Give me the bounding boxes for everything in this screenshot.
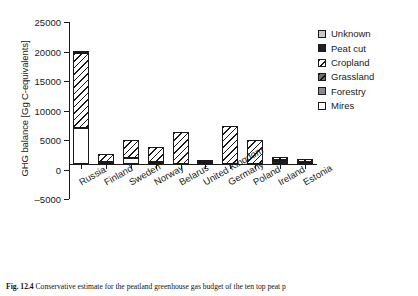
- bar-segment-cropland: [98, 154, 114, 162]
- legend-swatch-icon-unknown: [318, 30, 326, 38]
- legend-item-cropland[interactable]: Cropland: [318, 56, 374, 70]
- y-tick-label: 0: [56, 164, 61, 175]
- y-tick: [64, 140, 69, 141]
- figure-container: GHG balance [Gg C-equivalents] 250002000…: [0, 0, 418, 296]
- bar-ireland[interactable]: [272, 157, 288, 163]
- bar-segment-cropland: [73, 53, 89, 128]
- x-tick: [106, 164, 107, 169]
- legend-item-peatcut[interactable]: Peat cut: [318, 41, 374, 55]
- legend-swatch-icon-mires: [318, 102, 326, 110]
- y-tick-label: 10000: [35, 105, 61, 116]
- bar-segment-cropland: [297, 159, 313, 162]
- caption-number: Fig. 12.4: [6, 283, 34, 291]
- legend-item-unknown[interactable]: Unknown: [318, 27, 374, 41]
- legend-label: Grassland: [331, 72, 374, 82]
- bar-segment-cropland: [173, 132, 189, 163]
- legend-label: Mires: [331, 101, 354, 111]
- legend-swatch-icon-peatcut: [318, 44, 326, 52]
- bar-segment-cropland: [272, 157, 288, 160]
- legend-label: Forestry: [331, 87, 366, 97]
- y-tick: [64, 111, 69, 112]
- y-tick-label: 15000: [35, 76, 61, 87]
- legend-item-forestry[interactable]: Forestry: [318, 84, 374, 98]
- legend-item-grassland[interactable]: Grassland: [318, 70, 374, 84]
- legend-swatch-icon-grassland: [318, 73, 326, 81]
- figure-caption: Fig. 12.4 Conservative estimate for the …: [6, 283, 418, 294]
- bar-segment-cropland: [197, 160, 213, 162]
- x-tick: [81, 164, 82, 169]
- x-tick: [305, 164, 306, 169]
- y-tick: [64, 22, 69, 23]
- y-tick: [64, 81, 69, 82]
- legend-swatch-icon-cropland: [318, 59, 326, 67]
- bar-belarus[interactable]: [173, 132, 189, 163]
- bar-russia[interactable]: [73, 51, 89, 164]
- bar-sweden[interactable]: [123, 140, 139, 164]
- y-tick-label: 25000: [35, 17, 61, 28]
- y-axis-title: GHG balance [Gg C-equivalents]: [19, 19, 30, 199]
- y-tick-label: –5000: [35, 194, 61, 205]
- bar-segment-cropland: [123, 140, 139, 158]
- bar-finland[interactable]: [98, 154, 114, 163]
- bar-segment-mires: [123, 158, 139, 163]
- legend-label: Peat cut: [331, 44, 366, 54]
- y-tick-label: 20000: [35, 46, 61, 57]
- y-tick: [64, 199, 69, 200]
- bar-segment-mires: [73, 128, 89, 163]
- legend: UnknownPeat cutCroplandGrasslandForestry…: [318, 27, 374, 113]
- legend-item-mires[interactable]: Mires: [318, 98, 374, 112]
- y-tick: [64, 170, 69, 171]
- y-axis-line: [69, 22, 70, 199]
- caption-text: Conservative estimate for the peatland g…: [36, 283, 286, 291]
- y-tick: [64, 52, 69, 53]
- x-tick: [280, 164, 281, 169]
- legend-label: Cropland: [331, 58, 370, 68]
- bar-segment-cropland: [148, 147, 164, 162]
- bar-estonia[interactable]: [297, 159, 313, 164]
- y-tick-label: 5000: [40, 135, 61, 146]
- legend-label: Unknown: [331, 29, 371, 39]
- legend-swatch-icon-forestry: [318, 87, 326, 95]
- bar-segment-unknown: [73, 51, 89, 53]
